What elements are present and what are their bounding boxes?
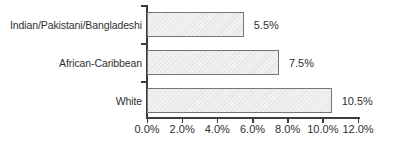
- x-tick-label: 6.0%: [240, 123, 265, 135]
- value-label: 7.5%: [289, 57, 314, 69]
- x-tick-label: 4.0%: [205, 123, 230, 135]
- bar: [147, 12, 244, 37]
- bar: [147, 88, 332, 113]
- x-tick-label: 2.0%: [170, 123, 195, 135]
- x-tick-label: 8.0%: [275, 123, 300, 135]
- x-tick-label: 12.0%: [342, 123, 373, 135]
- value-label: 5.5%: [254, 19, 279, 31]
- y-tick: [141, 81, 147, 83]
- category-label: White: [0, 95, 142, 107]
- x-tick-label: 10.0%: [307, 123, 338, 135]
- bar-chart: Indian/Pakistani/Bangladeshi 5.5% Africa…: [0, 0, 398, 143]
- y-tick: [141, 5, 147, 7]
- bar: [147, 50, 279, 75]
- category-label: African-Caribbean: [0, 57, 142, 69]
- value-label: 10.5%: [342, 95, 373, 107]
- category-label: Indian/Pakistani/Bangladeshi: [0, 19, 142, 31]
- y-tick: [141, 43, 147, 45]
- x-tick-label: 0.0%: [134, 123, 159, 135]
